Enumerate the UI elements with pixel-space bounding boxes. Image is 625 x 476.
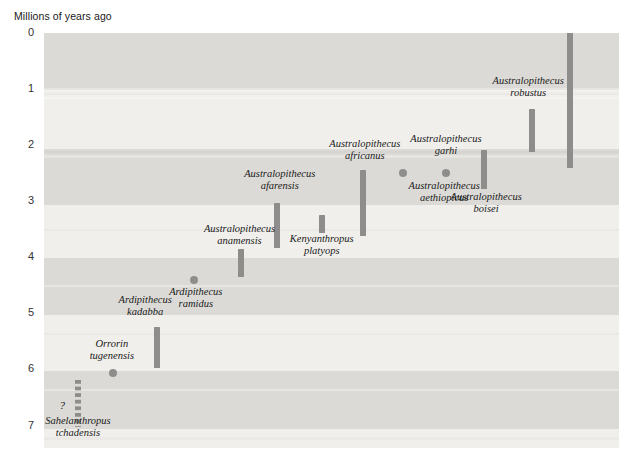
annotation-question-mark: ? bbox=[60, 399, 66, 411]
y-tick-label-0: 0 bbox=[8, 26, 34, 38]
range-bar-australopithecus-afarensis bbox=[274, 203, 280, 247]
hominin-timeline-figure: Millions of years ago 01234567 HomoAustr… bbox=[0, 0, 625, 476]
point-marker-australopithecus-aethiopicus bbox=[399, 169, 407, 177]
taxon-label-australopithecus-garhi: Australopithecusgarhi bbox=[410, 133, 481, 158]
range-bar-australopithecus-anamensis bbox=[238, 249, 244, 277]
range-bar-ardipithecus-kadabba bbox=[154, 327, 160, 367]
point-marker-australopithecus-garhi bbox=[442, 169, 450, 177]
taxon-label-ardipithecus-kadabba: Ardipithecuskadabba bbox=[119, 294, 172, 319]
taxon-label-orrorin-tugenensis: Orrorintugenensis bbox=[90, 338, 134, 363]
taxon-label-australopithecus-africanus: Australopithecusafricanus bbox=[329, 138, 400, 163]
plot-area: HomoAustralopithecusrobustusAustralopith… bbox=[44, 33, 619, 448]
taxon-label-australopithecus-afarensis: Australopithecusafarensis bbox=[244, 168, 315, 193]
range-bar-australopithecus-africanus bbox=[360, 170, 366, 236]
taxon-label-australopithecus-aethiopicus: Australopithecusaethiopicus bbox=[409, 180, 480, 205]
taxon-label-kenyanthropus-platyops: Kenyanthropusplatyops bbox=[290, 233, 354, 258]
y-tick-label-3: 3 bbox=[8, 194, 34, 206]
range-bar-homo bbox=[567, 33, 573, 168]
background-band bbox=[44, 429, 619, 448]
point-marker-ardipithecus-ramidus bbox=[190, 276, 198, 284]
axis-title: Millions of years ago bbox=[14, 10, 112, 22]
y-tick-label-6: 6 bbox=[8, 362, 34, 374]
taxon-label-sahelanthropus-tchadensis: Sahelanthropustchadensis bbox=[45, 415, 111, 440]
range-bar-australopithecus-robustus bbox=[529, 109, 535, 152]
taxon-label-australopithecus-robustus: Australopithecusrobustus bbox=[493, 75, 564, 100]
y-tick-label-4: 4 bbox=[8, 250, 34, 262]
y-tick-label-5: 5 bbox=[8, 306, 34, 318]
y-tick-label-7: 7 bbox=[8, 419, 34, 431]
range-bar-kenyanthropus-platyops bbox=[319, 215, 325, 234]
y-tick-label-2: 2 bbox=[8, 138, 34, 150]
range-bar-australopithecus-boisei bbox=[481, 150, 487, 189]
y-tick-label-1: 1 bbox=[8, 82, 34, 94]
taxon-label-ardipithecus-ramidus: Ardipithecusramidus bbox=[169, 286, 222, 311]
taxon-label-australopithecus-anamensis: Australopithecusanamensis bbox=[204, 223, 275, 248]
background-band bbox=[44, 371, 619, 429]
